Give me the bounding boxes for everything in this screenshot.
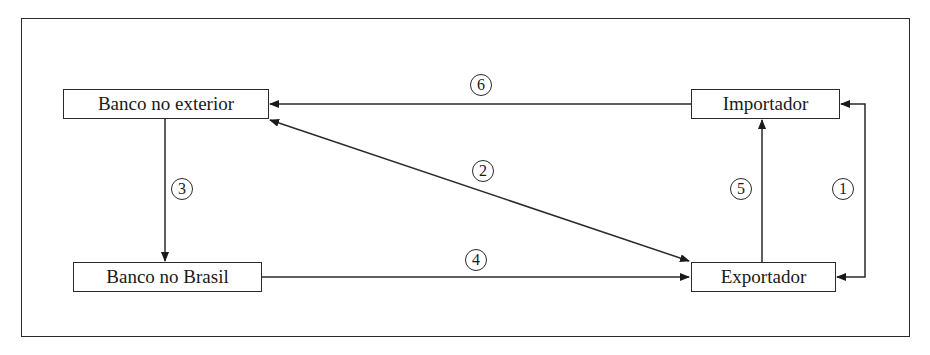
connectors <box>0 0 930 355</box>
step-badge-2: 2 <box>472 160 494 182</box>
arrow-step-2 <box>270 120 689 261</box>
step-badge-1: 1 <box>832 178 854 200</box>
node-banco-exterior: Banco no exterior <box>63 89 269 119</box>
node-exportador: Exportador <box>691 262 836 292</box>
node-importador: Importador <box>691 89 840 119</box>
step-badge-4: 4 <box>465 249 487 271</box>
step-badge-5: 5 <box>730 178 752 200</box>
step-badge-6: 6 <box>470 74 492 96</box>
step-badge-3: 3 <box>171 178 193 200</box>
node-banco-brasil: Banco no Brasil <box>73 262 262 292</box>
